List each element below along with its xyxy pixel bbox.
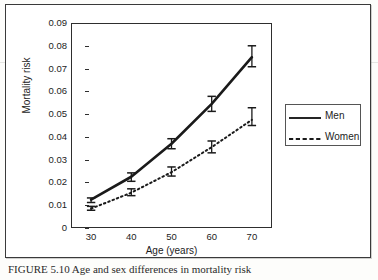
legend-item-women: Women xyxy=(286,126,362,147)
x-tick-label: 40 xyxy=(116,231,146,242)
y-tick-label: 0.05 xyxy=(31,109,67,119)
series-women xyxy=(87,108,256,211)
series-men xyxy=(87,46,256,203)
legend-line-sample xyxy=(288,131,322,143)
y-tick-label: 0.07 xyxy=(31,64,67,74)
y-tick-label: 0.09 xyxy=(31,18,67,28)
y-tick-label: 0.06 xyxy=(31,86,67,96)
x-tick-label: 30 xyxy=(76,231,106,242)
legend-item-men: Men xyxy=(286,105,362,126)
legend-label: Men xyxy=(325,110,344,121)
chart-legend: MenWomen xyxy=(285,104,361,146)
y-tick-label: 0.02 xyxy=(31,177,67,187)
chart-region: Mortality risk 00.010.020.030.040.050.06… xyxy=(6,5,372,259)
x-tick-label: 50 xyxy=(157,231,187,242)
y-tick-label: 0.04 xyxy=(31,132,67,142)
legend-line-sample xyxy=(288,110,322,122)
plot-canvas xyxy=(71,23,272,228)
y-tick-label: 0 xyxy=(31,223,67,233)
y-tick-mark xyxy=(85,228,89,229)
series-line xyxy=(91,120,252,209)
x-tick-label: 70 xyxy=(237,231,267,242)
legend-label: Women xyxy=(325,131,359,142)
y-axis-ticks: 00.010.020.030.040.050.060.070.080.09 xyxy=(24,23,67,228)
figure-caption: FIGURE 5.10 Age and sex differences in m… xyxy=(8,263,376,275)
figure-frame: Mortality risk 00.010.020.030.040.050.06… xyxy=(5,4,371,258)
x-tick-label: 60 xyxy=(197,231,227,242)
y-tick-label: 0.03 xyxy=(31,155,67,165)
x-axis-label: Age (years) xyxy=(71,245,272,256)
x-axis-ticks: 3040506070 xyxy=(71,231,272,245)
series-layer xyxy=(87,46,256,210)
scanned-page: Mortality risk 00.010.020.030.040.050.06… xyxy=(0,0,378,280)
series-line xyxy=(91,57,252,199)
y-tick-label: 0.01 xyxy=(31,200,67,210)
y-tick-label: 0.08 xyxy=(31,41,67,51)
